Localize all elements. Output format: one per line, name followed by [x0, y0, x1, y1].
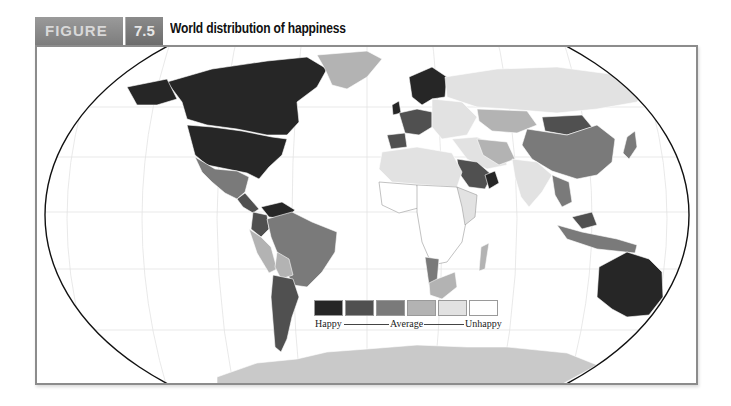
figure-title: World distribution of happiness: [170, 20, 346, 36]
figure-number: 7.5: [125, 17, 163, 45]
region-antarctica: [217, 345, 597, 383]
legend-swatch-4: [407, 300, 436, 316]
legend-swatch-5: [438, 300, 467, 316]
legend-swatch-6: [469, 300, 498, 316]
world-map: [37, 47, 696, 383]
region-malaysia: [572, 212, 597, 229]
region-madagascar: [479, 243, 489, 271]
region-japan: [623, 131, 637, 159]
region-spain: [387, 133, 407, 149]
legend-swatch-3: [376, 300, 405, 316]
region-se-asia: [552, 175, 572, 207]
region-nordic: [409, 67, 447, 105]
legend: Happy Average Unhappy: [314, 300, 504, 330]
land: [127, 51, 693, 383]
region-north-africa: [379, 147, 462, 187]
legend-swatches: [314, 300, 504, 316]
region-russia: [445, 67, 647, 113]
legend-labels: Happy Average Unhappy: [314, 318, 504, 330]
region-indonesia: [557, 225, 637, 253]
region-west-africa: [379, 182, 422, 213]
region-new-zealand: [677, 309, 693, 337]
region-canada: [167, 57, 327, 135]
region-western-europe: [399, 109, 432, 135]
legend-swatch-2: [345, 300, 374, 316]
legend-label-unhappy: Unhappy: [464, 318, 503, 329]
legend-swatch-1: [314, 300, 343, 316]
region-australia: [597, 252, 663, 317]
figure-tab: FIGURE 7.5: [35, 17, 163, 45]
figure-label: FIGURE: [35, 17, 123, 45]
region-greenland: [317, 51, 382, 89]
legend-label-happy: Happy: [314, 318, 343, 329]
legend-label-average: Average: [389, 318, 424, 329]
map-frame: Happy Average Unhappy: [35, 45, 698, 385]
